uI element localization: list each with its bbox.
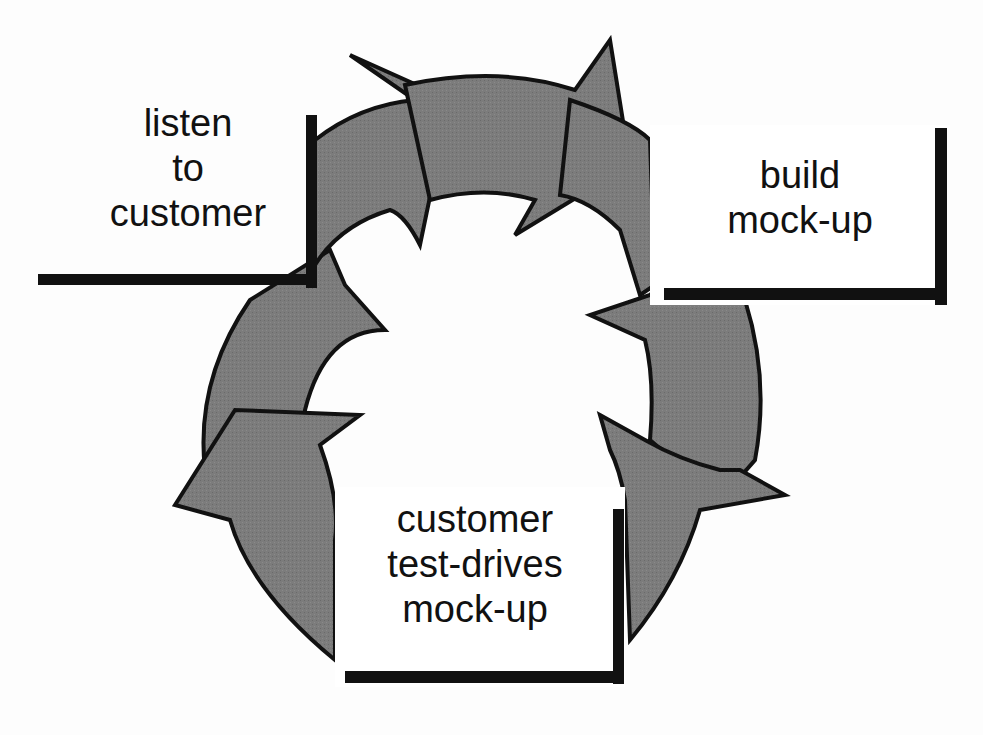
box-shadow	[306, 115, 317, 288]
box-shadow	[345, 671, 624, 683]
box-shadow	[38, 274, 317, 285]
box-shadow	[613, 509, 624, 684]
label-line: mock-up	[340, 587, 610, 632]
label-line: customer	[340, 497, 610, 542]
cycle-diagram: listen to customer build mock-up custome…	[0, 0, 983, 735]
label-line: mock-up	[670, 198, 930, 243]
label-line: build	[670, 153, 930, 198]
box-shadow	[935, 128, 947, 305]
step-label-test: customer test-drives mock-up	[340, 497, 610, 632]
arrow-top-right	[560, 100, 655, 295]
label-line: test-drives	[340, 542, 610, 587]
label-line: listen	[78, 101, 298, 146]
step-box-listen: listen to customer	[38, 95, 318, 285]
step-label-build: build mock-up	[670, 153, 930, 243]
step-box-build: build mock-up	[650, 125, 950, 305]
label-line: to	[78, 146, 298, 191]
step-label-listen: listen to customer	[78, 101, 298, 236]
label-line: customer	[78, 191, 298, 236]
box-shadow	[664, 288, 947, 300]
step-box-test: customer test-drives mock-up	[335, 487, 625, 687]
